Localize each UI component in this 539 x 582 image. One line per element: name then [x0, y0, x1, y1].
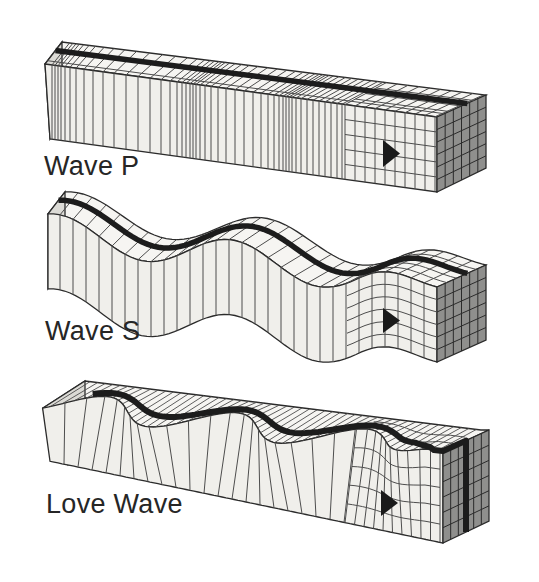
s-wave-label: Wave S [45, 318, 140, 345]
love-wave-block-diagram [0, 378, 539, 582]
love-wave-label: Love Wave [46, 491, 183, 518]
p-wave-label: Wave P [44, 153, 139, 180]
s-wave-block-diagram [0, 190, 539, 390]
seismic-wave-types-figure: Wave P Wave S Love Wave [0, 0, 539, 582]
